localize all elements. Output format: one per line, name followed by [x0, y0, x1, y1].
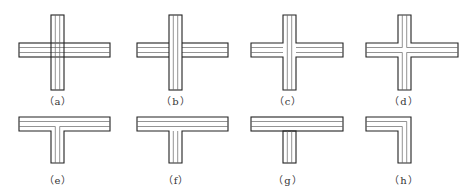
panel-f-tee-horizontal-through — [137, 117, 228, 163]
panel-label-e: （e） — [44, 172, 73, 187]
panel-h-corner — [366, 117, 411, 163]
panel-label-b: （b） — [161, 93, 190, 108]
panel-c-cross-merged-outer — [251, 15, 343, 90]
panel-label-a: （a） — [44, 93, 73, 108]
panel-label-c: （c） — [274, 93, 303, 108]
panel-g-tee-separate-stem — [251, 117, 343, 163]
panel-label-h: （h） — [389, 172, 418, 187]
panel-b-cross-vertical-through — [137, 15, 228, 90]
panel-label-d: （d） — [389, 93, 418, 108]
panel-d-cross-merged-all — [366, 15, 458, 90]
panel-label-g: （g） — [273, 172, 302, 187]
panel-a-cross-both-through — [19, 15, 110, 90]
panel-label-f: （f） — [163, 172, 190, 187]
panel-e-tee-merged — [19, 117, 110, 163]
